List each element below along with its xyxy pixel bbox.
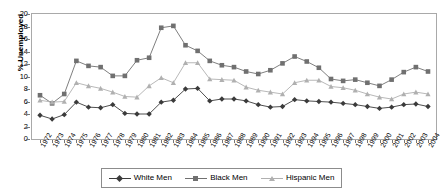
y-tick-mark [26, 27, 30, 28]
y-tick-mark [26, 127, 30, 128]
data-point [123, 74, 128, 79]
data-point [244, 85, 249, 90]
data-point [110, 74, 115, 79]
data-point [365, 80, 370, 85]
data-point [292, 97, 297, 102]
data-point [316, 99, 321, 104]
data-point [86, 104, 91, 109]
legend-item-white-men[interactable]: White Men [109, 174, 172, 183]
data-point [377, 106, 382, 111]
data-point [280, 104, 285, 109]
y-axis-ticks: 02468101214161820 [0, 13, 28, 140]
y-tick-label: 2 [4, 123, 28, 131]
data-point [135, 58, 140, 63]
data-point [328, 99, 333, 104]
y-tick-mark [26, 89, 30, 90]
y-tick-mark [26, 64, 30, 65]
y-tick-label: 6 [4, 98, 28, 106]
data-point [231, 96, 236, 101]
data-point [256, 102, 261, 107]
legend-key-square-icon [185, 174, 207, 183]
series-black-men [38, 24, 431, 106]
data-point [389, 104, 394, 109]
data-point [329, 77, 334, 82]
data-point [377, 84, 382, 89]
data-point [280, 61, 285, 66]
data-point [147, 55, 152, 60]
data-point [340, 101, 345, 106]
data-point [341, 79, 346, 84]
data-point [219, 96, 224, 101]
data-point [425, 104, 430, 109]
series-canvas [32, 14, 436, 139]
y-tick-label: 14 [4, 48, 28, 56]
legend-key-triangle-icon [261, 174, 283, 183]
series-line [40, 88, 428, 119]
data-point [171, 24, 176, 29]
series-white-men [37, 86, 430, 122]
series-line [40, 26, 428, 104]
legend-item-black-men[interactable]: Black Men [185, 174, 247, 183]
data-point [74, 59, 79, 64]
legend-item-hispanic-men[interactable]: Hispanic Men [261, 174, 334, 183]
y-tick-mark [26, 102, 30, 103]
data-point [232, 65, 237, 70]
y-tick-label: 20 [4, 10, 28, 18]
y-tick-label: 18 [4, 23, 28, 31]
data-point [401, 102, 406, 107]
y-tick-mark [26, 52, 30, 53]
y-tick-label: 8 [4, 85, 28, 93]
legend-label: Hispanic Men [286, 174, 334, 182]
data-point [401, 70, 406, 75]
data-point [268, 104, 273, 109]
data-point [413, 101, 418, 106]
data-point [134, 111, 139, 116]
data-point [49, 116, 54, 121]
data-point [37, 113, 42, 118]
data-point [159, 25, 164, 30]
data-point [195, 49, 200, 54]
y-tick-label: 0 [4, 135, 28, 143]
y-tick-label: 16 [4, 35, 28, 43]
data-point [389, 77, 394, 82]
data-point [86, 64, 91, 69]
data-point [171, 80, 176, 85]
data-point [220, 63, 225, 68]
data-point [62, 92, 67, 97]
data-point [147, 83, 152, 88]
data-point [365, 104, 370, 109]
y-tick-label: 10 [4, 73, 28, 81]
y-tick-label: 4 [4, 110, 28, 118]
data-point [353, 77, 358, 82]
data-point [426, 69, 431, 74]
y-tick-mark [26, 14, 30, 15]
plot-area [31, 13, 437, 140]
legend-label: White Men [134, 174, 172, 182]
data-point [98, 65, 103, 70]
data-point [292, 54, 297, 59]
data-point [304, 98, 309, 103]
y-tick-mark [26, 77, 30, 78]
x-axis-ticks: 1972197319741975197619771978197919801981… [31, 141, 437, 171]
data-point [244, 69, 249, 74]
data-point [304, 59, 309, 64]
data-point [207, 59, 212, 64]
data-point [268, 68, 273, 73]
data-point [414, 65, 419, 70]
data-point [353, 102, 358, 107]
data-point [159, 75, 164, 80]
data-point [98, 105, 103, 110]
unemployment-line-chart: % Unemployed 02468101214161820 197219731… [0, 0, 443, 193]
legend-label: Black Men [210, 174, 247, 182]
data-point [256, 72, 261, 77]
legend-key-diamond-icon [109, 174, 131, 183]
y-tick-mark [26, 139, 30, 140]
data-point [183, 43, 188, 48]
chart-legend: White Men Black Men Hispanic Men [101, 168, 342, 188]
data-point [74, 80, 79, 85]
y-tick-mark [26, 39, 30, 40]
y-tick-mark [26, 114, 30, 115]
data-point [317, 65, 322, 70]
y-tick-label: 12 [4, 60, 28, 68]
data-point [243, 98, 248, 103]
